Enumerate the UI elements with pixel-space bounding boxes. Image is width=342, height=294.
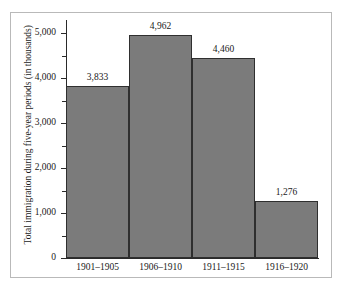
- y-tick-label: 5,000: [35, 28, 56, 38]
- x-axis-line: [66, 258, 319, 259]
- y-tick-label: 3,000: [35, 118, 56, 128]
- y-tick-major: [61, 258, 66, 259]
- y-tick-label: 2,000: [35, 163, 56, 173]
- y-tick-label: 4,000: [35, 73, 56, 83]
- x-tick-label: 1906–1910: [129, 263, 192, 273]
- x-tick-label: 1901–1905: [66, 263, 129, 273]
- y-tick-label: 1,000: [35, 208, 56, 218]
- bar[interactable]: [66, 86, 129, 258]
- y-tick-label: 0: [51, 253, 56, 263]
- bar-value-label: 4,962: [129, 22, 192, 32]
- y-tick-minor: [62, 56, 66, 57]
- x-tick-label: 1911–1915: [192, 263, 255, 273]
- bar[interactable]: [192, 58, 255, 258]
- bar[interactable]: [255, 201, 318, 258]
- bar[interactable]: [129, 35, 192, 258]
- figure: Total immigration during five-year perio…: [0, 0, 342, 294]
- bar-value-label: 3,833: [66, 73, 129, 83]
- bar-value-label: 1,276: [255, 188, 318, 198]
- y-axis-title: Total immigration during five-year perio…: [24, 20, 34, 250]
- bar-value-label: 4,460: [192, 45, 255, 55]
- y-tick-major: [61, 33, 66, 34]
- x-tick-label: 1916–1920: [255, 263, 318, 273]
